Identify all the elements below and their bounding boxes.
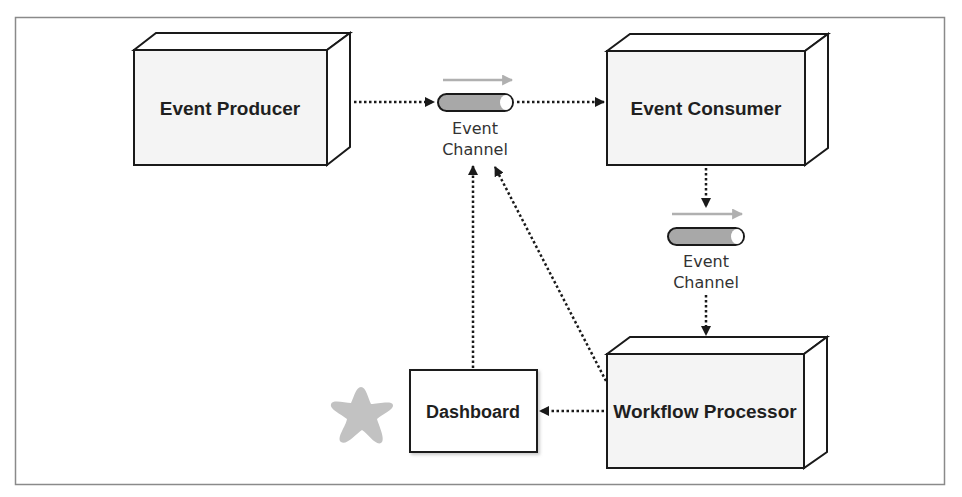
channel-top-label-line2: Channel [442, 140, 508, 159]
channel-right-label-line1: Event [683, 252, 729, 271]
channel-right-label-line2: Channel [673, 273, 739, 292]
workflow-processor-top-face [607, 337, 827, 354]
channel-top-label-line1: Event [452, 119, 498, 138]
event-channel-right[interactable]: Event Channel [668, 214, 744, 292]
workflow-processor-label: Workflow Processor [613, 401, 797, 422]
event-producer-node[interactable]: Event Producer [134, 33, 350, 165]
event-producer-label: Event Producer [160, 98, 301, 119]
event-consumer-node[interactable]: Event Consumer [607, 34, 828, 165]
event-channel-top[interactable]: Event Channel [438, 80, 513, 159]
event-consumer-top-face [607, 34, 828, 51]
event-consumer-label: Event Consumer [631, 98, 783, 119]
edge-workflow-to-channel [495, 167, 606, 381]
event-consumer-side-face [805, 34, 828, 165]
workflow-processor-node[interactable]: Workflow Processor [607, 337, 827, 468]
dashboard-label: Dashboard [426, 402, 520, 422]
workflow-processor-side-face [804, 337, 827, 468]
event-producer-top-face [134, 33, 350, 50]
event-producer-side-face [327, 33, 350, 165]
channel-pipe-end [731, 229, 743, 244]
dashboard-node[interactable]: Dashboard [410, 370, 537, 452]
star-icon [331, 387, 393, 443]
event-driven-architecture-diagram: Event Producer Event Consumer Workflow P… [0, 0, 962, 497]
channel-pipe-end [500, 95, 512, 110]
